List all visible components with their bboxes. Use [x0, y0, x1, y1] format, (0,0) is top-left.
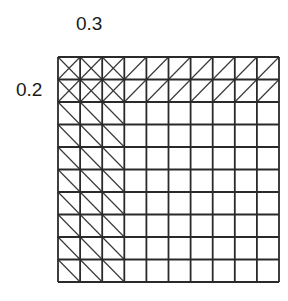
- left-strip-backslash: [102, 147, 124, 170]
- left-strip-backslash: [80, 237, 102, 260]
- top-strip-slash: [169, 80, 191, 103]
- left-strip-backslash: [58, 102, 80, 125]
- left-strip-backslash: [58, 170, 80, 193]
- top-strip-slash: [169, 57, 191, 80]
- left-strip-backslash: [80, 170, 102, 193]
- left-strip-backslash: [58, 192, 80, 215]
- top-strip-slash: [257, 57, 279, 80]
- top-strip-slash: [146, 80, 168, 103]
- left-strip-backslash: [80, 125, 102, 148]
- top-strip-slash: [213, 57, 235, 80]
- left-strip-backslash: [102, 125, 124, 148]
- left-strip-backslash: [80, 260, 102, 283]
- left-strip-backslash: [102, 215, 124, 238]
- left-strip-backslash: [102, 102, 124, 125]
- left-strip-backslash: [58, 237, 80, 260]
- left-strip-backslash: [102, 237, 124, 260]
- top-strip-slash: [213, 80, 235, 103]
- top-strip-slash: [235, 57, 257, 80]
- left-strip-backslash: [102, 260, 124, 283]
- left-strip-backslash: [80, 102, 102, 125]
- top-strip-slash: [124, 80, 146, 103]
- left-strip-backslash: [80, 215, 102, 238]
- top-strip-slash: [191, 57, 213, 80]
- top-strip-slash: [257, 80, 279, 103]
- top-strip-slash: [235, 80, 257, 103]
- top-strip-slash: [191, 80, 213, 103]
- left-strip-backslash: [58, 215, 80, 238]
- left-strip-backslash: [58, 260, 80, 283]
- left-strip-backslash: [80, 147, 102, 170]
- left-strip-backslash: [102, 170, 124, 193]
- left-strip-backslash: [80, 192, 102, 215]
- left-strip-backslash: [58, 147, 80, 170]
- left-strip-backslash: [58, 125, 80, 148]
- top-strip-slash: [146, 57, 168, 80]
- left-strip-backslash: [102, 192, 124, 215]
- top-strip-slash: [124, 57, 146, 80]
- hundred-grid-diagram: [0, 0, 288, 301]
